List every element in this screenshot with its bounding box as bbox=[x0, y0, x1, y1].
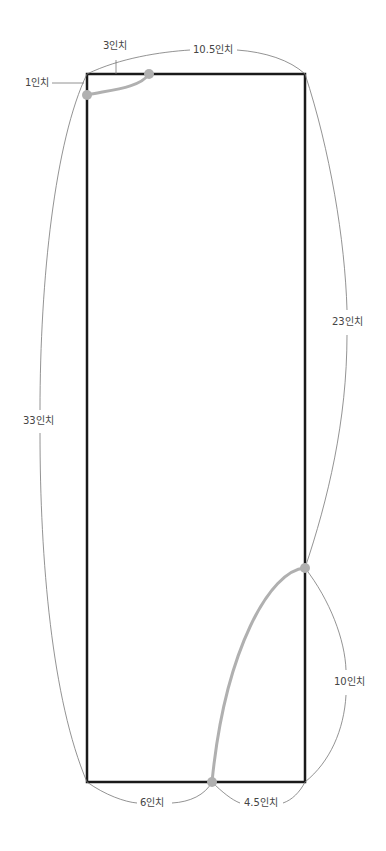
neckline-curve bbox=[87, 74, 149, 95]
label-top-width: 10.5인치 bbox=[192, 44, 234, 56]
pattern-diagram bbox=[0, 0, 386, 851]
label-neck-width: 3인치 bbox=[102, 40, 128, 52]
neck-point-side bbox=[82, 90, 92, 100]
label-right-lower: 10인치 bbox=[333, 676, 366, 688]
label-left-height: 33인치 bbox=[22, 415, 55, 427]
label-bottom-right: 4.5인치 bbox=[243, 797, 279, 809]
label-bottom-left: 6인치 bbox=[139, 797, 165, 809]
label-neck-depth: 1인치 bbox=[24, 77, 50, 89]
label-right-upper: 23인치 bbox=[331, 316, 364, 328]
armhole-curve bbox=[212, 568, 305, 782]
pattern-outline bbox=[87, 74, 305, 782]
neck-point-top bbox=[144, 69, 154, 79]
armhole-point-bottom bbox=[207, 777, 217, 787]
armhole-point-side bbox=[300, 563, 310, 573]
